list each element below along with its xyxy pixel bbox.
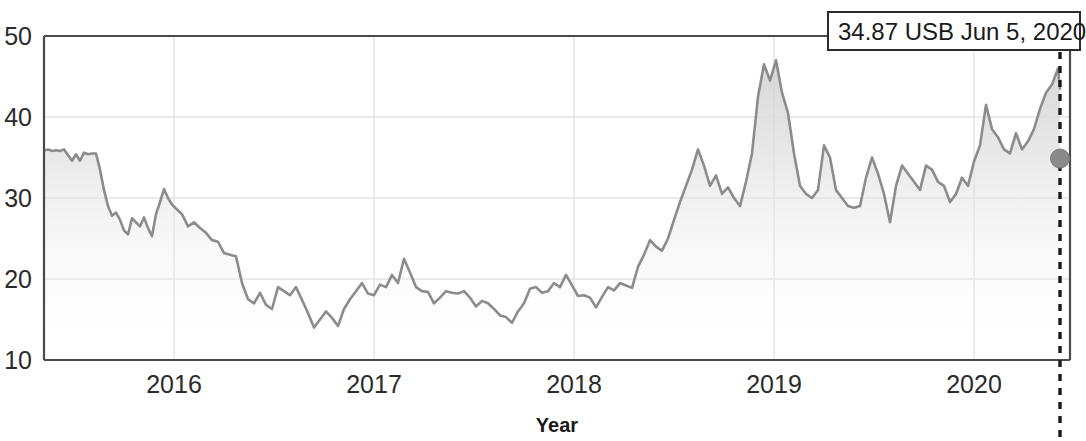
y-axis-tick-label: 30 bbox=[4, 184, 32, 212]
tooltip-box[interactable]: 34.87 USB Jun 5, 2020 bbox=[828, 12, 1086, 50]
line-chart[interactable]: 1020304050 20162017201820192020 34.87 US… bbox=[0, 0, 1086, 441]
y-axis-tick-label: 40 bbox=[4, 103, 32, 131]
tooltip-label: 34.87 USB Jun 5, 2020 bbox=[838, 18, 1086, 45]
x-axis-tick-label: 2018 bbox=[546, 370, 602, 398]
annotation-marker-dot[interactable] bbox=[1051, 149, 1070, 168]
y-axis-tick-label: 20 bbox=[4, 265, 32, 293]
x-axis-tick-label: 2020 bbox=[946, 370, 1002, 398]
chart-container: 1020304050 20162017201820192020 34.87 US… bbox=[0, 0, 1086, 441]
y-axis-tick-label: 50 bbox=[4, 22, 32, 50]
x-axis-tick-label: 2019 bbox=[746, 370, 802, 398]
x-axis-tick-label: 2017 bbox=[346, 370, 402, 398]
x-axis-title: Year bbox=[536, 414, 578, 436]
y-axis-tick-label: 10 bbox=[4, 346, 32, 374]
x-axis-tick-label: 2016 bbox=[146, 370, 202, 398]
